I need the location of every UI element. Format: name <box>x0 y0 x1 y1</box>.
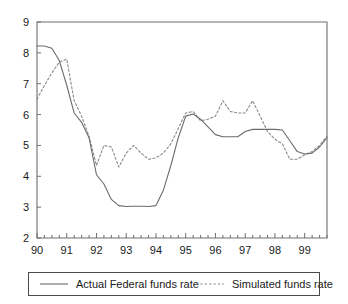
y-tick-label: 6 <box>23 109 29 121</box>
x-tick-label: 95 <box>180 244 192 256</box>
y-tick-label: 8 <box>23 47 29 59</box>
x-tick-label: 93 <box>120 244 132 256</box>
y-tick-label: 5 <box>23 139 29 151</box>
y-tick-label: 9 <box>23 16 29 28</box>
x-tick-label: 92 <box>90 244 102 256</box>
y-tick-label: 3 <box>23 201 29 213</box>
x-tick-label: 99 <box>299 244 311 256</box>
chart-legend: Actual Federal funds rate Simulated fund… <box>29 273 333 296</box>
y-tick-label: 2 <box>23 232 29 244</box>
x-tick-label: 96 <box>209 244 221 256</box>
x-tick-label: 94 <box>150 244 162 256</box>
chart-figure: 23456789 90919293949596979899 Actual Fed… <box>0 0 348 304</box>
x-tick-label: 98 <box>269 244 281 256</box>
x-tick-label: 97 <box>239 244 251 256</box>
legend-label-actual: Actual Federal funds rate <box>76 278 199 290</box>
legend-label-simulated: Simulated funds rate <box>232 278 333 290</box>
funds-rate-line-chart: 23456789 90919293949596979899 Actual Fed… <box>0 0 348 304</box>
x-tick-label: 90 <box>31 244 43 256</box>
y-tick-label: 4 <box>23 170 29 182</box>
x-tick-label: 91 <box>61 244 73 256</box>
y-tick-label: 7 <box>23 78 29 90</box>
